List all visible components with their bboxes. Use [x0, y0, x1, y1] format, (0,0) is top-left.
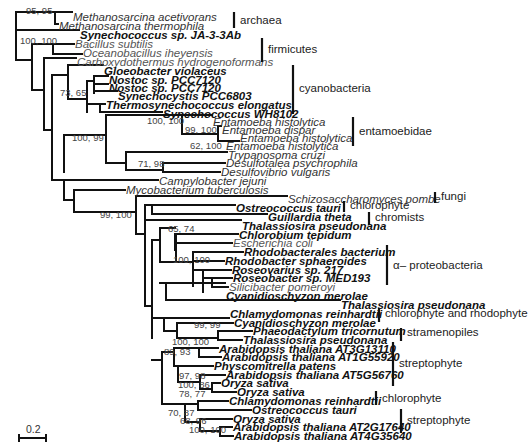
bootstrap-support-value: 100, 99 [72, 132, 104, 143]
bootstrap-support-value: 95, 95 [26, 5, 52, 16]
leaf-label: Mycobacterium tuberculosis [126, 184, 269, 196]
scale-bar: 0.2 [19, 423, 46, 442]
clade-label: stramenopiles [407, 326, 479, 338]
bootstrap-support-value: 100, 100 [173, 254, 210, 265]
clade-label: entamoebidae [359, 125, 432, 137]
bootstrap-support-value: 99, 100 [185, 124, 217, 135]
tree-branch [32, 44, 44, 90]
bootstrap-support-value: 65, 74 [168, 223, 194, 234]
bootstrap-support-value: 73, 65 [60, 87, 86, 98]
clade-label: archaea [240, 14, 282, 26]
bootstrap-support-value: 100, 100 [20, 35, 57, 46]
clade-label: fungi [441, 190, 466, 202]
bootstrap-support-value: 99, 99 [194, 319, 220, 330]
clade-label: streptophyte [407, 414, 470, 426]
bootstrap-support-value: 89, 93 [164, 346, 190, 357]
bootstrap-support-value: 71, 98 [138, 158, 164, 169]
bootstrap-support-value: 99, 100 [100, 209, 132, 220]
clade-label: chlorophyte [382, 392, 441, 404]
phylogenetic-tree: 95, 95100, 10073, 65100, 100100, 9999, 1… [0, 0, 528, 446]
clade-label: chlorophyte [350, 199, 409, 211]
leaf-label: Arabidopsis thaliana AT4G35640 [233, 430, 412, 442]
scale-bar-label: 0.2 [26, 423, 41, 435]
leaf-labels: Methanosarcina acetivoransMethanosarcina… [59, 11, 486, 442]
clade-label: streptophyte [399, 357, 462, 369]
tree-branch [199, 348, 221, 357]
bootstrap-support-value: 100, 100 [189, 424, 226, 435]
clade-label: chlorophyte and rhodophyte [385, 307, 528, 319]
tree-branch [44, 58, 52, 130]
tree-branch [55, 12, 58, 24]
clade-label: firmicutes [268, 43, 317, 55]
clade-label: chromists [375, 211, 424, 223]
clade-label: α– proteobacteria [393, 259, 483, 271]
bootstrap-support-value: 78, 77 [179, 388, 205, 399]
clade-label: cyanobacteria [299, 82, 371, 94]
bootstrap-support-value: 62, 100 [190, 140, 222, 151]
